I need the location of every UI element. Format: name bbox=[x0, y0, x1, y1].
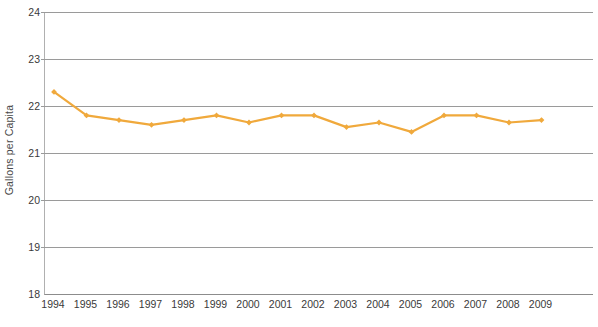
plot-area bbox=[44, 12, 593, 295]
data-point-2007 bbox=[474, 113, 480, 119]
y-tick-label-21: 21 bbox=[18, 148, 40, 159]
y-tick-label-22: 22 bbox=[18, 101, 40, 112]
y-tick-label-23: 23 bbox=[18, 54, 40, 65]
series-line-gallons-per-capita bbox=[54, 92, 542, 132]
y-tick-label-18: 18 bbox=[18, 289, 40, 300]
series-markers bbox=[51, 89, 544, 135]
data-point-1999 bbox=[214, 113, 220, 119]
data-point-2003 bbox=[344, 124, 350, 130]
data-point-1996 bbox=[116, 117, 122, 123]
data-point-2000 bbox=[246, 120, 252, 126]
y-axis-tick-labels: 18192021222324 bbox=[14, 0, 40, 327]
x-tick-label-2009: 2009 bbox=[521, 299, 561, 310]
data-point-1998 bbox=[181, 117, 187, 123]
y-tick-label-20: 20 bbox=[18, 195, 40, 206]
data-point-2008 bbox=[506, 120, 512, 126]
data-point-2002 bbox=[311, 113, 317, 119]
data-point-1997 bbox=[149, 122, 155, 128]
x-axis-tick-labels: 1994199519961997199819992000200120022003… bbox=[44, 299, 592, 319]
line-chart: Gallons per Capita 18192021222324 199419… bbox=[0, 0, 598, 327]
data-point-2004 bbox=[376, 120, 382, 126]
y-tick-label-24: 24 bbox=[18, 7, 40, 18]
y-tick-label-19: 19 bbox=[18, 242, 40, 253]
series-layer bbox=[45, 12, 593, 294]
data-point-2009 bbox=[539, 117, 545, 123]
data-point-2001 bbox=[279, 113, 285, 119]
